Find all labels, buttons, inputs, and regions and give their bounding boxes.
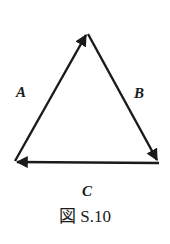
label-b: B: [134, 86, 144, 101]
figure-caption: 図 S.10: [0, 208, 170, 225]
label-c: C: [82, 184, 92, 199]
vector-b-arrow: [88, 34, 157, 160]
label-a: A: [16, 85, 26, 100]
vector-c-arrow: [17, 162, 159, 163]
